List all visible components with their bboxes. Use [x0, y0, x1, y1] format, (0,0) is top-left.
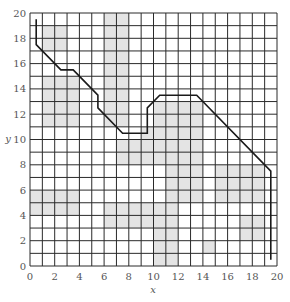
x-tick-label: 8 [126, 271, 132, 282]
x-tick-label: 16 [221, 271, 234, 282]
x-tick-label: 2 [52, 271, 58, 282]
y-tick-label: 16 [13, 58, 26, 69]
y-tick-label: 8 [20, 159, 26, 170]
shaded-region [203, 241, 215, 254]
grid-path-diagram: 02468101214161820 02468101214161820 x y [0, 0, 290, 302]
y-axis-ticks: 02468101214161820 [13, 8, 26, 272]
x-tick-label: 6 [101, 271, 107, 282]
x-tick-label: 20 [271, 271, 284, 282]
y-tick-label: 14 [13, 83, 26, 94]
y-tick-label: 0 [20, 261, 26, 272]
y-axis-label: y [4, 133, 11, 144]
x-tick-label: 10 [147, 271, 160, 282]
y-tick-label: 4 [20, 210, 26, 221]
x-tick-label: 0 [27, 271, 33, 282]
y-tick-label: 2 [20, 235, 26, 246]
y-tick-label: 18 [13, 33, 26, 44]
y-tick-label: 20 [13, 8, 26, 19]
x-tick-label: 4 [76, 271, 82, 282]
x-axis-ticks: 02468101214161820 [27, 271, 284, 282]
x-tick-label: 14 [197, 271, 210, 282]
x-tick-label: 18 [246, 271, 259, 282]
x-axis-label: x [150, 284, 156, 295]
y-tick-label: 6 [20, 185, 26, 196]
x-tick-label: 12 [172, 271, 185, 282]
y-tick-label: 10 [13, 134, 26, 145]
shaded-region [166, 165, 203, 203]
y-tick-label: 12 [13, 109, 26, 120]
